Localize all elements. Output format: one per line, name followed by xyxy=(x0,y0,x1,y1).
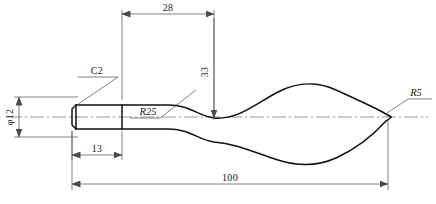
annotation-r5-label: R5 xyxy=(409,87,422,98)
annotation-r25-label: R25 xyxy=(139,106,157,117)
dimension-13: 13 xyxy=(72,131,122,160)
annotation-chamfer-c2: C2 xyxy=(74,65,118,107)
annotation-c2-label: C2 xyxy=(91,65,103,76)
dimension-28-label: 28 xyxy=(163,2,174,13)
handle-lower-profile xyxy=(122,117,391,165)
part-outline-group xyxy=(72,84,391,165)
dimension-13-label: 13 xyxy=(92,143,103,154)
annotation-radius-r25: R25 xyxy=(130,90,196,118)
dimension-28: 28 xyxy=(122,2,214,120)
annotation-radius-r5: R5 xyxy=(387,87,432,113)
dimension-33: 33 xyxy=(199,18,214,118)
handle-upper-profile xyxy=(122,84,391,118)
dimension-33-label: 33 xyxy=(199,67,210,78)
dimension-diameter-12-label: φ12 xyxy=(4,109,15,126)
dimension-100-label: 100 xyxy=(222,172,238,183)
drawing-svg: 28 33 φ12 13 100 xyxy=(0,0,436,204)
technical-drawing-canvas: 28 33 φ12 13 100 xyxy=(0,0,436,204)
